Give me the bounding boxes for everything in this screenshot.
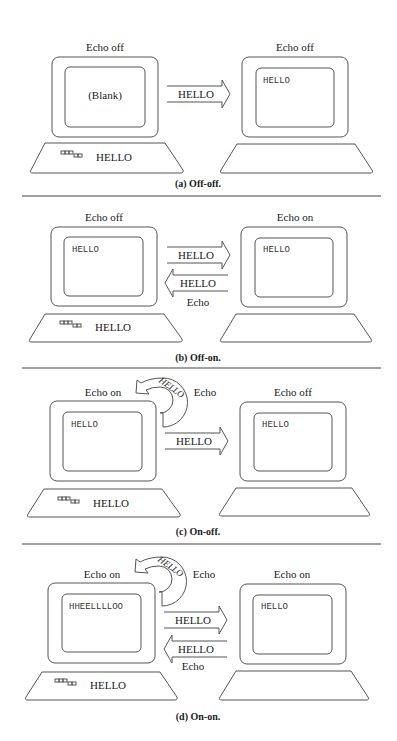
screen-text: HELLO [263, 76, 290, 86]
arrow-right-icon: HELLO [167, 241, 230, 269]
screen-text: (Blank) [88, 89, 122, 102]
echo-status-label: Echo off [86, 41, 124, 53]
keyboard-typed-text: HELLO [96, 151, 132, 163]
keyboard-typed-text: HELLO [95, 321, 131, 333]
arrow-left-icon: HELLO Echo [164, 635, 227, 672]
screen-text: HELLO [262, 420, 289, 430]
screen-text: HELLO [261, 602, 288, 612]
arrow-label: HELLO [178, 643, 214, 655]
right-terminal: Echo on HELLO [219, 568, 368, 700]
screen-text: HHEELLLLOO [69, 602, 123, 612]
panel-c: Echo on HELLO HELLO HELLO Echo HELLO Ech… [27, 375, 369, 538]
echo-status-label: Echo off [85, 211, 123, 223]
keyboard-icon [220, 144, 372, 173]
panel-d: Echo on HHEELLLLOO HELLO HELLO Echo HELL… [25, 554, 368, 723]
arrow-label: HELLO [176, 435, 212, 447]
arrow-sublabel: Echo [187, 296, 210, 308]
arrow-right-icon: HELLO [165, 427, 228, 455]
keyboard-icon [220, 314, 371, 342]
caption: (b) Off-on. [175, 352, 221, 364]
echo-status-label: Echo on [277, 211, 314, 223]
left-terminal: Echo on HHEELLLLOO HELLO [25, 568, 177, 700]
keyboard-icon [219, 488, 369, 516]
arrow-sublabel: Echo [182, 660, 205, 672]
keyboard-typed-text: HELLO [90, 679, 126, 691]
echo-curl-sublabel: Echo [193, 568, 216, 580]
right-terminal: Echo off HELLO [220, 41, 372, 173]
right-terminal: Echo on HELLO [220, 211, 371, 342]
keyboard-icon [219, 671, 368, 700]
screen-text: HELLO [71, 420, 98, 430]
keyboard-typed-text: HELLO [93, 497, 129, 509]
panel-b: Echo off HELLO HELLO HELLO HELLO Echo Ec… [29, 211, 371, 364]
caption: (d) On-on. [176, 711, 221, 723]
arrow-left-icon: HELLO Echo [165, 269, 228, 308]
arrow-right-icon: HELLO [167, 80, 230, 108]
arrow-label: HELLO [175, 614, 211, 626]
left-terminal: Echo on HELLO HELLO [27, 386, 180, 517]
echo-status-label: Echo off [274, 386, 312, 398]
echo-status-label: Echo on [84, 568, 121, 580]
screen-text: HELLO [263, 245, 290, 255]
echo-curl-sublabel: Echo [194, 386, 217, 398]
screen-text: HELLO [72, 245, 99, 255]
arrow-label: HELLO [180, 277, 216, 289]
caption: (c) On-off. [176, 526, 221, 538]
right-terminal: Echo off HELLO [219, 386, 369, 516]
echo-status-label: Echo on [274, 568, 311, 580]
echo-status-label: Echo off [276, 41, 314, 53]
arrow-label: HELLO [178, 249, 214, 261]
left-terminal: Echo off HELLO HELLO [29, 211, 182, 342]
left-terminal: Echo off (Blank) HELLO [30, 41, 183, 173]
arrow-right-icon: HELLO [164, 606, 227, 634]
caption: (a) Off-off. [175, 178, 222, 190]
echo-status-label: Echo on [85, 386, 122, 398]
arrow-label: HELLO [178, 88, 214, 100]
panel-a: Echo off (Blank) HELLO HELLO Echo off HE… [30, 41, 372, 190]
